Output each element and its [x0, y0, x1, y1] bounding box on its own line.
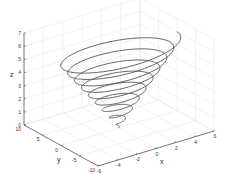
- x-tick-label: 4: [194, 139, 197, 145]
- z-tick-label: 2: [18, 96, 21, 102]
- x-axis-label: x: [160, 158, 164, 165]
- z-tick-label: 6: [18, 43, 21, 49]
- z-tick-label: 5: [18, 56, 21, 62]
- x-tick-label: -6: [97, 168, 102, 173]
- y-axis-ticks: 1050-5-10: [15, 125, 99, 174]
- z-tick-label: 7: [18, 30, 21, 36]
- y-tick-label: -10: [88, 167, 95, 173]
- y-axis-label: y: [57, 156, 61, 164]
- x-tick-label: 2: [175, 145, 178, 151]
- z-tick-label: 4: [18, 69, 21, 75]
- x-tick-label: 6: [214, 133, 217, 139]
- axes: [24, 33, 214, 166]
- spiral-3d-plot: 01234567 1050-5-10 -6-4-20246 x y z: [0, 0, 231, 173]
- x-tick-label: -2: [135, 156, 140, 162]
- z-tick-label: 3: [18, 83, 21, 89]
- y-tick-label: 10: [15, 126, 21, 132]
- x-tick-label: 0: [156, 151, 159, 157]
- x-tick-label: -4: [116, 162, 121, 168]
- z-tick-label: 1: [18, 109, 21, 115]
- y-tick-label: 5: [37, 136, 40, 142]
- z-axis-ticks: 01234567: [18, 30, 26, 128]
- y-tick-label: -5: [72, 157, 77, 163]
- x-axis-ticks: -6-4-20246: [97, 130, 217, 174]
- z-axis-label: z: [10, 71, 14, 78]
- y-tick-label: 0: [55, 147, 58, 153]
